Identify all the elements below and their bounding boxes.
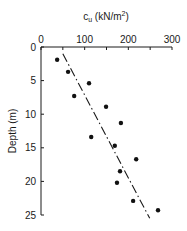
- data-point: [156, 208, 160, 212]
- data-point: [66, 70, 70, 74]
- trend-line-path: [63, 54, 150, 219]
- trend-line: [63, 54, 150, 219]
- y-tick-label: 0: [30, 42, 36, 53]
- x-axis: 0100200300: [38, 34, 181, 50]
- x-tick-label: 0: [38, 34, 44, 45]
- x-tick-label: 200: [120, 34, 137, 45]
- y-tick-label: 25: [25, 210, 37, 221]
- data-point: [55, 58, 59, 62]
- y-axis-title: Depth (m): [7, 109, 18, 153]
- y-tick-label: 15: [25, 142, 37, 153]
- data-point: [131, 199, 135, 203]
- data-point: [118, 169, 122, 173]
- x-tick-label: 300: [164, 34, 181, 45]
- data-point: [87, 81, 91, 85]
- chart-cu-vs-depth: cu (kN/m2) Depth (m) 0100200300 05101520…: [0, 0, 187, 231]
- data-point: [89, 135, 93, 139]
- y-tick-label: 5: [30, 75, 36, 86]
- x-tick-label: 100: [76, 34, 93, 45]
- y-tick-label: 20: [25, 176, 37, 187]
- y-tick-label: 10: [25, 109, 37, 120]
- x-axis-title: cu (kN/m2): [83, 10, 129, 23]
- data-point: [134, 157, 138, 161]
- data-point: [115, 181, 119, 185]
- data-point: [119, 121, 123, 125]
- data-point: [104, 105, 108, 109]
- data-point: [72, 94, 76, 98]
- data-point: [113, 144, 117, 148]
- data-points: [55, 58, 160, 213]
